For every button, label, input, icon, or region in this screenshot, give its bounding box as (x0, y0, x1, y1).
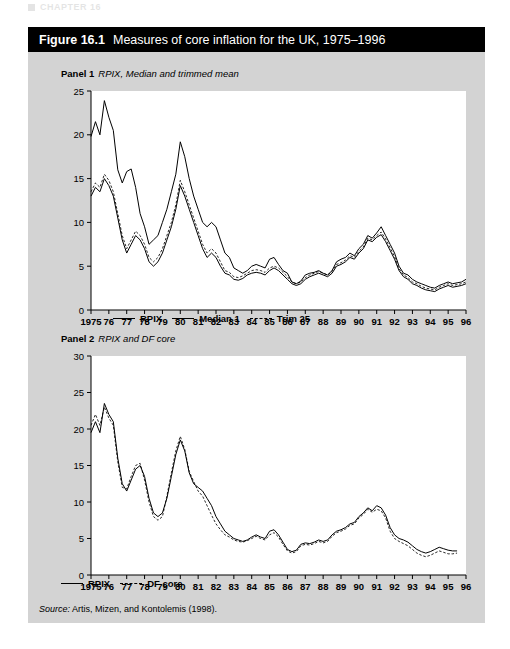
legend-line-dotted-icon (120, 583, 142, 584)
svg-text:93: 93 (407, 581, 418, 592)
svg-text:25: 25 (73, 387, 84, 398)
svg-text:95: 95 (443, 581, 454, 592)
svg-text:90: 90 (354, 581, 365, 592)
svg-text:91: 91 (371, 581, 382, 592)
source-label: Source: (39, 604, 70, 614)
panel2-legend: RPIX DF core (61, 578, 193, 589)
svg-text:94: 94 (425, 581, 436, 592)
svg-text:86: 86 (282, 581, 293, 592)
header-square-icon (28, 4, 35, 11)
svg-text:5: 5 (79, 533, 84, 544)
panel2-legend-item-0: RPIX (61, 578, 110, 589)
panel2-legend-label-0: RPIX (88, 578, 110, 589)
svg-text:84: 84 (246, 581, 257, 592)
running-header-text: CHAPTER 16 (40, 2, 101, 12)
svg-text:87: 87 (300, 581, 311, 592)
panel2-legend-item-1: DF core (120, 578, 182, 589)
figure-container: Figure 16.1 Measures of core inflation f… (28, 27, 485, 623)
svg-text:82: 82 (211, 581, 222, 592)
running-header: CHAPTER 16 (28, 2, 228, 12)
svg-text:83: 83 (229, 581, 240, 592)
svg-text:15: 15 (73, 460, 84, 471)
figure-source: Source: Artis, Mizen, and Kontolemis (19… (39, 604, 217, 614)
svg-text:89: 89 (336, 581, 347, 592)
panel2-chart-svg: 0510152025301975767778798081828384858687… (28, 27, 485, 623)
svg-text:20: 20 (73, 424, 84, 435)
svg-text:92: 92 (389, 581, 400, 592)
svg-text:96: 96 (461, 581, 472, 592)
svg-text:10: 10 (73, 497, 84, 508)
svg-text:88: 88 (318, 581, 329, 592)
legend-line-solid-icon (61, 583, 83, 584)
svg-text:81: 81 (193, 581, 204, 592)
panel2-legend-label-1: DF core (147, 578, 182, 589)
svg-text:85: 85 (264, 581, 275, 592)
source-text: Artis, Mizen, and Kontolemis (1998). (70, 604, 217, 614)
svg-text:30: 30 (73, 351, 84, 362)
